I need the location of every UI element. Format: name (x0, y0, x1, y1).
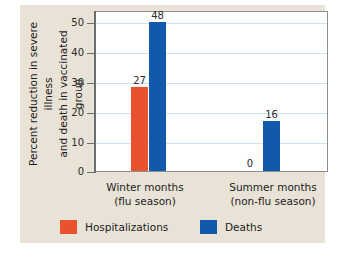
bar-value-summer-hospitalizations: 0 (241, 158, 259, 169)
bar-value-winter-deaths: 48 (144, 10, 171, 21)
bar-winter-hospitalizations (131, 87, 148, 171)
gridline-20 (95, 113, 327, 114)
x-axis-label-winter-line-2: (flu season) (85, 194, 205, 208)
y-axis-title-line-2: and death in vaccinated group (56, 14, 86, 174)
bar-summer-deaths (263, 121, 280, 171)
y-axis-title: Percent reduction in severe illness and … (26, 0, 60, 14)
bar-value-winter-hospitalizations: 27 (126, 75, 153, 86)
y-tick-mark-30 (87, 83, 95, 84)
y-axis-line (94, 11, 96, 173)
gridline-10 (95, 143, 327, 144)
plot-area: 27 48 0 16 (94, 11, 328, 172)
y-axis-title-line-1: Percent reduction in severe illness (26, 14, 56, 174)
x-axis-label-winter: Winter months (flu season) (85, 180, 205, 208)
y-tick-mark-50 (87, 23, 95, 24)
y-tick-mark-20 (87, 113, 95, 114)
y-tick-mark-0 (87, 172, 95, 173)
legend-swatch-deaths (200, 220, 217, 234)
gridline-40 (95, 53, 327, 54)
bar-winter-deaths (149, 22, 166, 171)
x-axis-label-winter-line-1: Winter months (85, 180, 205, 194)
bar-value-summer-deaths: 16 (258, 109, 285, 120)
y-tick-mark-10 (87, 143, 95, 144)
y-tick-mark-40 (87, 53, 95, 54)
legend-swatch-hospitalizations (60, 220, 77, 234)
legend-label-hospitalizations: Hospitalizations (85, 221, 168, 233)
gridline-50 (95, 23, 327, 24)
x-axis-label-summer-line-1: Summer months (208, 180, 338, 194)
chart-figure: 27 48 0 16 50 40 30 20 10 0 Percent redu… (0, 0, 340, 258)
x-axis-label-summer-line-2: (non-flu season) (208, 194, 338, 208)
x-axis-label-summer: Summer months (non-flu season) (208, 180, 338, 208)
legend-label-deaths: Deaths (225, 221, 262, 233)
